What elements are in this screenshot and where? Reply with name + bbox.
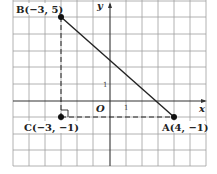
origin-label: O	[96, 103, 105, 114]
point-A	[171, 114, 177, 120]
axes	[13, 4, 205, 166]
x-tick-1: 1	[124, 104, 128, 112]
y-axis-label: y	[96, 0, 104, 11]
coordinate-plane: x y O 1 1 B(−3, 5) C(−3, −1) A(4, −1)	[0, 0, 217, 174]
point-B-label: B(−3, 5)	[16, 4, 63, 16]
point-A-label: A(4, −1)	[161, 122, 208, 134]
point-C-label: C(−3, −1)	[24, 122, 79, 134]
point-C	[58, 114, 64, 120]
y-axis-arrow-icon	[108, 2, 112, 8]
y-tick-1: 1	[103, 81, 107, 89]
x-axis-label: x	[198, 103, 206, 114]
